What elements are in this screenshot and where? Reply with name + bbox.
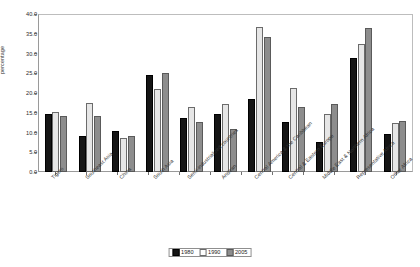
bar-group: [39, 15, 73, 172]
legend-swatch: [226, 249, 233, 256]
y-tick-label: 15.0: [1, 110, 37, 116]
y-tick-label: 10.0: [1, 130, 37, 136]
x-tick-mark: [303, 172, 304, 175]
x-tick-mark: [210, 172, 211, 175]
bar: [290, 88, 297, 172]
y-tick-mark: [34, 112, 37, 113]
y-tick-mark: [34, 14, 37, 15]
bar-group: [141, 15, 175, 172]
legend-swatch: [200, 249, 207, 256]
y-tick-label: 25.0: [1, 70, 37, 76]
bar: [60, 116, 67, 172]
y-tick-label: 0.0: [1, 169, 37, 175]
y-axis: percentage 0.05.010.015.020.025.030.035.…: [0, 14, 37, 172]
legend-swatch: [173, 249, 180, 256]
x-tick-mark: [179, 172, 180, 175]
x-axis-labels: TigersSoutheast AsiaChinaSouth AsiaSemi-…: [39, 176, 412, 246]
bar: [146, 75, 153, 172]
legend-item: 1990: [200, 249, 221, 256]
y-tick-mark: [34, 93, 37, 94]
y-tick-mark: [34, 172, 37, 173]
y-tick-label: 5.0: [1, 149, 37, 155]
chart-legend: 198019902005: [169, 248, 252, 257]
bar: [188, 107, 195, 172]
legend-item: 2005: [226, 249, 247, 256]
y-tick-label: 40.0: [1, 11, 37, 17]
x-tick-mark: [272, 172, 273, 175]
y-tick-mark: [34, 152, 37, 153]
x-tick-mark: [334, 172, 335, 175]
bar: [154, 89, 161, 172]
y-tick-label: 30.0: [1, 51, 37, 57]
bar-group: [107, 15, 141, 172]
bar-group: [242, 15, 276, 172]
bar-group: [73, 15, 107, 172]
y-tick-mark: [34, 132, 37, 133]
x-tick-mark: [148, 172, 149, 175]
legend-label: 1990: [208, 250, 220, 256]
bar: [180, 118, 187, 172]
y-tick-label: 35.0: [1, 31, 37, 37]
y-tick-mark: [34, 53, 37, 54]
bar: [350, 58, 357, 172]
bar: [79, 136, 86, 172]
y-tick-mark: [34, 73, 37, 74]
bar: [112, 131, 119, 172]
x-tick-mark: [241, 172, 242, 175]
bar: [52, 112, 59, 172]
bar-chart: percentage 0.05.010.015.020.025.030.035.…: [0, 0, 420, 267]
y-tick-label: 20.0: [1, 90, 37, 96]
legend-label: 2005: [235, 250, 247, 256]
bar: [248, 99, 255, 172]
bar: [86, 103, 93, 172]
bar: [256, 27, 263, 172]
bar: [365, 28, 372, 172]
legend-label: 1980: [181, 250, 193, 256]
bar: [45, 114, 52, 172]
bar: [264, 37, 271, 172]
bar-group: [175, 15, 209, 172]
bar: [162, 73, 169, 172]
legend-item: 1980: [173, 249, 194, 256]
bar: [358, 44, 365, 172]
y-tick-mark: [34, 33, 37, 34]
bar: [392, 123, 399, 172]
